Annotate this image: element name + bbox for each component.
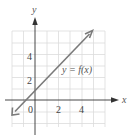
y-tick-4: 4 [27, 51, 32, 62]
curve-label: y = f(x) [61, 64, 93, 76]
y-axis-arrow-icon [32, 17, 37, 25]
y-axis [32, 17, 37, 135]
x-tick-2: 2 [56, 104, 61, 115]
x-axis-arrow-icon [111, 97, 119, 102]
y-axis-label: y [31, 4, 37, 15]
function-graph: y x 0 2 4 2 4 y = f(x) [0, 0, 131, 138]
x-tick-4: 4 [79, 104, 84, 115]
y-tick-2: 2 [27, 75, 32, 86]
origin-label: 0 [28, 104, 33, 115]
x-axis [5, 97, 119, 102]
x-axis-label: x [121, 94, 127, 105]
